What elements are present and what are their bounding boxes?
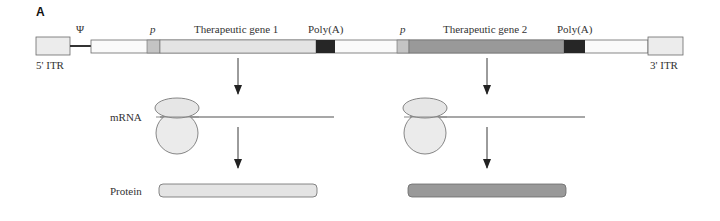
protein-1-bar (159, 184, 317, 197)
psi-label: Ψ (76, 23, 85, 35)
itr-5-label: 5' ITR (36, 59, 65, 71)
gene-2-label: Therapeutic gene 2 (443, 23, 527, 35)
itr-3-label: 3' ITR (650, 59, 679, 71)
polya-2-segment (564, 40, 585, 53)
mrna-2-with-ribosome (403, 98, 585, 154)
promoter-1-label: p (149, 23, 156, 35)
mrna-label: mRNA (110, 111, 142, 123)
gene-expression-diagram: A 5' ITR Ψ p Therapeutic gene 1 Poly(A) … (0, 0, 720, 221)
gene-1-label: Therapeutic gene 1 (194, 23, 278, 35)
mrna-1-with-ribosome (155, 98, 334, 154)
ribosome-1-small-subunit (155, 98, 199, 118)
panel-label: A (36, 5, 45, 19)
gene-2-segment (409, 40, 564, 53)
promoter-2-segment (397, 40, 409, 53)
vector-construct (36, 37, 683, 55)
promoter-2-label: p (399, 23, 406, 35)
polya-1-label: Poly(A) (308, 23, 344, 36)
protein-label: Protein (110, 185, 142, 197)
itr-5-box (36, 37, 70, 55)
itr-3-box (648, 37, 683, 55)
protein-2-bar (408, 184, 566, 197)
polya-1-segment (316, 40, 335, 53)
promoter-1-segment (147, 40, 160, 53)
ribosome-2-small-subunit (403, 98, 447, 118)
polya-2-label: Poly(A) (557, 23, 593, 36)
gene-1-segment (160, 40, 316, 53)
